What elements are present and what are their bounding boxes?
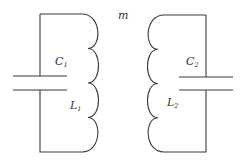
right-inductor-coil [148, 15, 165, 152]
label-l2: L2 [166, 96, 178, 110]
left-circuit: C1 L1 [13, 14, 99, 152]
right-circuit: C2 L2 [148, 15, 234, 152]
label-mutual-inductance: m [118, 9, 128, 22]
left-inductor-coil [82, 14, 99, 152]
label-c1: C1 [55, 55, 68, 69]
label-c2: C2 [186, 55, 199, 69]
coupled-lc-circuit-diagram: C1 L1 m C2 L2 [0, 0, 244, 164]
label-l1: L1 [69, 99, 81, 113]
